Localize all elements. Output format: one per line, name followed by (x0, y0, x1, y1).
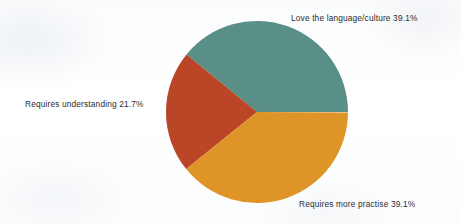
pie-label-love-the-language-culture: Love the language/culture 39.1% (291, 13, 417, 23)
pie-slices (166, 21, 348, 203)
pie-label-requires-understanding: Requires understanding 21.7% (25, 99, 144, 109)
pie-chart-page: Love the language/culture 39.1% Requires… (0, 0, 461, 224)
pie-label-requires-more-practise: Requires more practise 39.1% (299, 199, 415, 209)
pie-chart-graphic (0, 0, 461, 224)
